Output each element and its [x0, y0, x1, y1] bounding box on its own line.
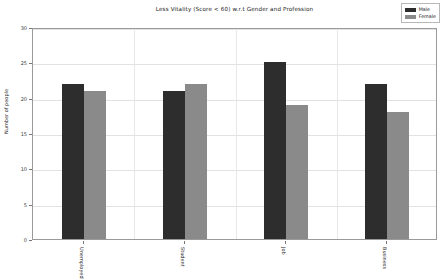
x-axis-tick-mark [285, 241, 286, 244]
bar-student-male [163, 91, 185, 239]
y-axis-tick-label: 20 [21, 96, 27, 102]
x-axis-tick-label-job: Job [281, 247, 287, 255]
gridline [33, 64, 436, 65]
x-axis-tick-mark [184, 241, 185, 244]
x-axis-tick-label-unemployed: Unemployed [79, 247, 85, 279]
bar-unemployed-male [62, 84, 84, 239]
bar-job-female [286, 105, 308, 239]
legend-label: Female [419, 14, 436, 19]
y-axis: 051015202530 [0, 28, 32, 240]
y-axis-label: Number of people [3, 89, 9, 134]
y-axis-tick-label: 10 [21, 166, 27, 172]
x-axis: UnemployedStudentJobBusiness [32, 241, 437, 279]
x-axis-tick-label-business: Business [382, 247, 388, 269]
gridline [33, 29, 436, 30]
bar-student-female [185, 84, 207, 239]
bar-business-female [387, 112, 409, 239]
x-axis-tick-mark [83, 241, 84, 244]
bar-business-male [365, 84, 387, 239]
chart-legend: MaleFemale [401, 3, 440, 23]
y-axis-tick-label: 15 [21, 131, 27, 137]
legend-swatch-icon [405, 15, 416, 19]
chart-title: Less Vitality (Score < 60) w.r.t Gender … [32, 6, 437, 12]
y-axis-tick-label: 5 [24, 202, 27, 208]
x-axis-tick-label-student: Student [180, 247, 186, 267]
y-axis-tick-label: 30 [21, 25, 27, 31]
y-axis-tick-label: 25 [21, 60, 27, 66]
bar-unemployed-female [84, 91, 106, 239]
plot-area [32, 28, 437, 240]
legend-label: Male [419, 7, 430, 12]
gridline [337, 29, 338, 239]
chart-figure: Less Vitality (Score < 60) w.r.t Gender … [0, 0, 448, 279]
gridline [236, 29, 237, 239]
y-axis-tick-label: 0 [24, 237, 27, 243]
gridline [134, 29, 135, 239]
legend-item-female[interactable]: Female [405, 13, 436, 20]
legend-item-male[interactable]: Male [405, 6, 436, 13]
x-axis-tick-mark [386, 241, 387, 244]
bar-job-male [264, 62, 286, 239]
legend-swatch-icon [405, 8, 416, 12]
